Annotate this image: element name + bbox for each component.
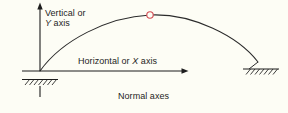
- fixed-support-hatch-icon-right: [243, 62, 279, 75]
- vertical-axis-label: Vertical orY axis: [45, 8, 86, 28]
- crown-point-circle-icon: [147, 12, 153, 18]
- vertical-axis-label-suffix: axis: [51, 18, 70, 28]
- normal-axes-figure: Vertical orY axis Horizontal or X axis N…: [0, 0, 288, 113]
- left-support-hatching: [25, 80, 57, 86]
- horizontal-axis-label-suffix: axis: [138, 56, 157, 66]
- horizontal-axis-label-prefix: Horizontal or: [78, 56, 132, 66]
- arrow-up-icon: [37, 3, 42, 10]
- figure-caption: Normal axes: [118, 91, 169, 101]
- right-springing-edge: [249, 62, 258, 69]
- vertical-axis-label-line1: Vertical or: [45, 8, 86, 18]
- horizontal-axis-label: Horizontal or X axis: [78, 56, 157, 66]
- right-support-hatching: [246, 69, 278, 75]
- fixed-support-hatch-icon-left: [22, 80, 58, 98]
- arrow-right-icon: [182, 68, 189, 73]
